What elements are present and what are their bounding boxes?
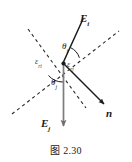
arc-theta-j bbox=[49, 76, 64, 83]
vector-reflection-diagram bbox=[0, 0, 132, 140]
dashed-line-surface bbox=[12, 31, 119, 114]
dashed-line-upper-left bbox=[28, 29, 86, 108]
figure-caption: 图 2.30 bbox=[0, 142, 132, 157]
incident-ray-line bbox=[63, 19, 83, 63]
figure-container: Ei Ej n θi θj εri εrj 图 2.30 bbox=[0, 0, 132, 162]
arc-theta-i bbox=[71, 48, 80, 58]
vertex-point bbox=[61, 61, 65, 65]
normal-vector-arrow bbox=[64, 64, 104, 104]
